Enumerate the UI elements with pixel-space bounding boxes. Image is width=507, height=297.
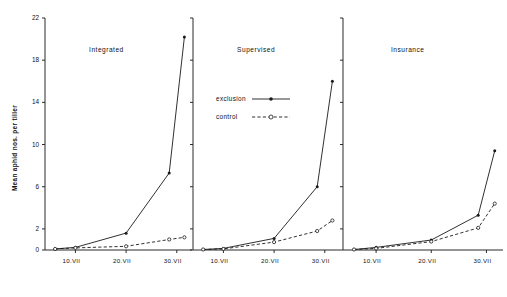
legend-marker-control: [269, 115, 273, 119]
figure-canvas: Mean aphid nos. per tiller 0261014182210…: [0, 0, 507, 297]
legend: exclusioncontrol: [0, 0, 507, 297]
legend-marker-exclusion: [269, 97, 273, 101]
legend-symbols: [0, 0, 507, 297]
